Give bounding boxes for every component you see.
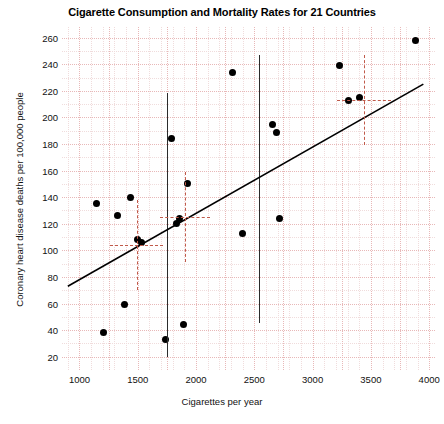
x-tick-label: 1500 — [127, 374, 148, 385]
x-tick-label: 4000 — [419, 374, 440, 385]
y-axis-label: Coronary heart disease deaths per 100,00… — [14, 50, 25, 350]
chart-figure: Cigarette Consumption and Mortality Rate… — [0, 0, 444, 424]
crosshair-vertical — [137, 200, 138, 290]
x-tick-label: 1000 — [69, 374, 90, 385]
y-tick-label: 260 — [42, 32, 58, 43]
plot-area — [62, 27, 435, 370]
y-tick-label: 60 — [47, 298, 58, 309]
x-tick-label: 3000 — [302, 374, 323, 385]
y-tick-label: 180 — [42, 138, 58, 149]
y-axis-tick-labels: 20406080100120140160180200220240260 — [0, 0, 58, 424]
chart-title: Cigarette Consumption and Mortality Rate… — [0, 6, 444, 18]
y-tick-label: 140 — [42, 192, 58, 203]
x-axis-label: Cigarettes per year — [0, 396, 444, 407]
y-tick-label: 100 — [42, 245, 58, 256]
y-tick-label: 120 — [42, 218, 58, 229]
regression-trend-line — [68, 84, 424, 286]
x-tick-label: 2000 — [185, 374, 206, 385]
y-tick-label: 240 — [42, 59, 58, 70]
regression-line — [62, 27, 435, 370]
y-tick-label: 40 — [47, 325, 58, 336]
y-tick-label: 200 — [42, 112, 58, 123]
y-tick-label: 160 — [42, 165, 58, 176]
x-tick-label: 3500 — [360, 374, 381, 385]
y-tick-label: 220 — [42, 85, 58, 96]
x-axis-tick-labels: 1000150020002500300035004000 — [0, 374, 444, 394]
y-tick-label: 20 — [47, 351, 58, 362]
y-tick-label: 80 — [47, 271, 58, 282]
crosshair-vertical — [364, 55, 365, 145]
x-tick-label: 2500 — [244, 374, 265, 385]
crosshair-vertical — [185, 172, 186, 262]
